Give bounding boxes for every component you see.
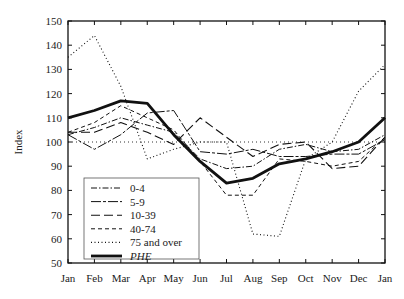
legend-label: 5-9 (130, 196, 145, 208)
y-tick-label: 90 (51, 160, 63, 172)
y-tick-label: 150 (46, 15, 63, 27)
y-tick-label: 120 (46, 88, 63, 100)
line-chart: 5060708090100110120130140150 JanFebMarAp… (0, 0, 404, 299)
y-tick-label: 70 (51, 209, 63, 221)
legend-label: 10-39 (130, 209, 156, 221)
x-tick-label: Aug (243, 272, 262, 284)
y-tick-label: 100 (46, 136, 63, 148)
x-tick-label: Feb (86, 272, 103, 284)
legend-label: 75 and over (130, 236, 182, 248)
legend: 0-45-910-3940-7475 and overPHE (84, 178, 199, 262)
x-tick-label: Sep (271, 272, 288, 284)
y-tick-label: 50 (51, 257, 63, 269)
x-tick-label: Mar (112, 272, 131, 284)
y-tick-label: 140 (46, 39, 63, 51)
series-line-phe (68, 101, 385, 183)
y-tick-label: 130 (46, 63, 63, 75)
x-tick-label: Jul (220, 272, 233, 284)
y-tick-label: 80 (51, 184, 63, 196)
series-line-10-39 (68, 118, 385, 169)
x-tick-label: Jan (61, 272, 76, 284)
legend-label: 0-4 (130, 182, 145, 194)
x-tick-label: Nov (323, 272, 342, 284)
y-tick-label: 60 (51, 233, 63, 245)
legend-label: 40-74 (130, 223, 156, 235)
x-tick-label: Dec (350, 272, 368, 284)
x-tick-label: May (164, 272, 185, 284)
x-tick-label: Oct (298, 272, 314, 284)
legend-label: PHE (129, 250, 152, 262)
y-axis-title: Index (12, 129, 24, 155)
x-tick-label: Jan (378, 272, 393, 284)
x-tick-label: Apr (139, 272, 156, 284)
series-line-0-4 (68, 118, 385, 169)
x-tick-label: Jun (192, 272, 208, 284)
y-tick-label: 110 (46, 112, 63, 124)
